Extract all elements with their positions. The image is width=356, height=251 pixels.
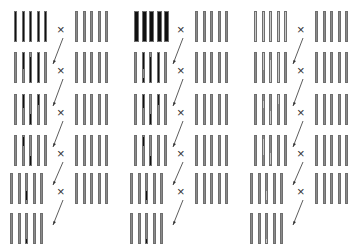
arrow-icon [53,121,63,147]
arrow-icon [293,121,303,147]
arrow-icon [293,79,303,106]
arrows-layer [120,0,236,251]
arrow-icon [293,38,303,64]
arrow-icon [173,79,183,106]
arrow-icon [173,38,183,64]
arrow-icon [293,200,303,225]
panel-1: ××××× [0,0,116,251]
panel-3: ××××× [240,0,356,251]
arrow-icon [53,200,63,225]
arrow-icon [53,79,63,106]
arrows-layer [240,0,356,251]
arrows-layer [0,0,116,251]
arrow-icon [53,38,63,64]
arrow-icon [173,121,183,147]
arrow-icon [173,200,183,225]
panel-2: ××××× [120,0,236,251]
